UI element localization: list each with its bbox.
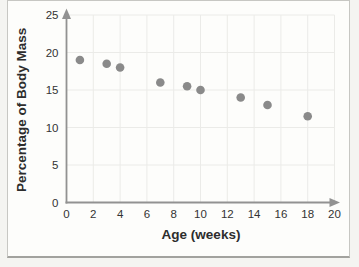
y-tick-label: 10 — [46, 122, 59, 134]
data-point — [263, 101, 272, 110]
data-point — [102, 59, 111, 68]
x-tick-label: 12 — [221, 208, 234, 220]
x-tick-label: 16 — [275, 208, 288, 220]
data-point — [236, 93, 245, 102]
chart-figure: 024681012141618200510152025 Percentage o… — [0, 0, 359, 267]
y-axis-arrow — [62, 9, 71, 20]
y-tick-label: 25 — [46, 9, 59, 21]
data-point — [116, 63, 125, 72]
data-point — [76, 56, 85, 65]
x-tick-label: 10 — [194, 208, 207, 220]
data-point — [303, 112, 312, 121]
y-tick-label: 0 — [52, 197, 58, 209]
x-tick-label: 0 — [63, 208, 69, 220]
data-point — [183, 82, 192, 91]
x-tick-label: 14 — [248, 208, 261, 220]
y-tick-label: 5 — [52, 159, 58, 171]
data-point — [196, 86, 205, 95]
x-tick-label: 8 — [170, 208, 176, 220]
x-tick-label: 6 — [144, 208, 150, 220]
x-tick-label: 2 — [90, 208, 96, 220]
x-tick-label: 4 — [117, 208, 124, 220]
x-axis-title: Age (weeks) — [67, 226, 335, 244]
data-point — [156, 78, 165, 87]
chart-border-frame: 024681012141618200510152025 Percentage o… — [7, 0, 350, 258]
x-tick-label: 18 — [301, 208, 314, 220]
y-tick-label: 20 — [46, 47, 59, 59]
y-tick-label: 15 — [46, 84, 59, 96]
x-tick-label: 20 — [328, 208, 341, 220]
y-axis-title: Percentage of Body Mass — [13, 32, 31, 192]
